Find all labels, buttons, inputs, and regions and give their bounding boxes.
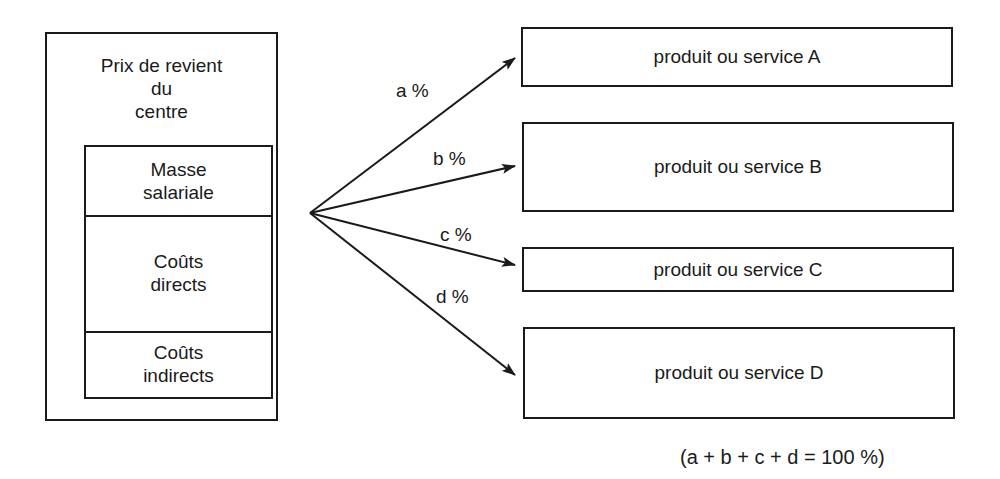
title-line: Prix de revient [47,54,276,77]
product-label: produit ou service D [655,362,824,384]
arrow-to-c [310,213,515,265]
allocation-label-b: b % [433,148,466,170]
component-label: Coûts [154,341,204,364]
product-label: produit ou service A [654,46,821,68]
title-line: du [47,77,276,100]
component-couts-directs: Coûts directs [86,215,271,333]
allocation-label-a: a % [396,80,429,102]
component-masse-salariale: Masse salariale [86,147,271,217]
product-box-a: produit ou service A [521,27,953,87]
formula-note: (a + b + c + d = 100 %) [680,446,885,468]
title-line: centre [47,100,276,123]
component-label: salariale [143,181,214,204]
allocation-label-c: c % [440,224,472,246]
product-box-b: produit ou service B [522,122,954,212]
product-box-d: produit ou service D [523,327,955,419]
arrow-to-d [310,213,515,375]
cost-components-stack: Masse salariale Coûts directs Coûts indi… [84,145,273,399]
product-box-c: produit ou service C [522,247,954,292]
component-couts-indirects: Coûts indirects [86,331,271,397]
component-label: Coûts [154,250,204,273]
product-label: produit ou service B [654,156,822,178]
cost-centre-title: Prix de revient du centre [47,54,276,123]
component-label: directs [151,273,207,296]
allocation-label-d: d % [436,286,469,308]
component-label: Masse [151,158,207,181]
product-label: produit ou service C [654,259,823,281]
component-label: indirects [143,364,214,387]
cost-centre-box: Prix de revient du centre Masse salarial… [45,32,278,421]
